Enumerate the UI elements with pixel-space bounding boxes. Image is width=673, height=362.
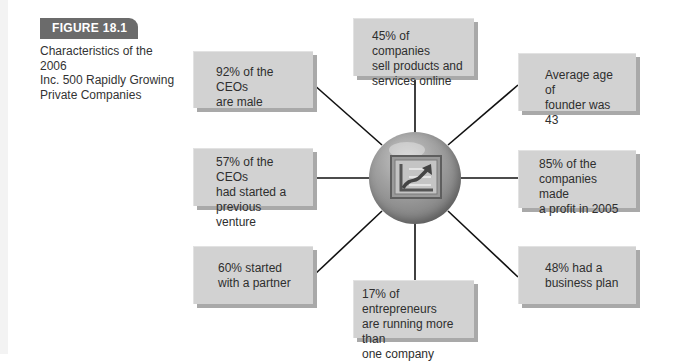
rising-chart-icon	[369, 132, 461, 224]
fact-box-male-ceos: 92% of the CEOs are male	[193, 51, 313, 108]
fact-text: had started a	[216, 185, 303, 200]
fact-box-business-plan: 48% had a business plan	[518, 246, 636, 304]
fact-box-founder-age: Average age of founder was 43	[518, 53, 636, 111]
fact-text: sell products and	[372, 59, 464, 74]
fact-text: companies made	[539, 172, 626, 202]
fact-text: 45% of companies	[372, 29, 464, 59]
fact-text: a profit in 2005	[539, 202, 626, 217]
fact-box-partner: 60% started with a partner	[193, 246, 313, 304]
fact-text: 57% of the CEOs	[216, 155, 303, 185]
fact-text: 85% of the	[539, 157, 626, 172]
fact-box-previous-venture: 57% of the CEOs had started a previous v…	[193, 148, 313, 206]
fact-text: 48% had a	[545, 261, 626, 276]
fact-box-multiple-companies: 17% of entrepreneurs are running more th…	[353, 280, 474, 338]
fact-text: 17% of entrepreneurs	[362, 287, 464, 317]
fact-text: business plan	[545, 276, 626, 291]
fact-text: founder was 43	[545, 98, 626, 128]
fact-text: previous venture	[216, 200, 303, 230]
fact-text: are running more than	[362, 317, 464, 347]
fact-box-online-sales: 45% of companies sell products and servi…	[353, 18, 474, 76]
fact-text: 92% of the CEOs	[216, 65, 303, 95]
fact-text: Average age of	[545, 68, 626, 98]
fact-text: are male	[216, 95, 303, 110]
fact-text: 60% started	[218, 261, 303, 276]
fact-box-profit: 85% of the companies made a profit in 20…	[518, 150, 636, 208]
fact-text: with a partner	[218, 276, 303, 291]
fact-text: services online	[372, 74, 464, 89]
central-hub	[369, 132, 461, 224]
fact-text: one company	[362, 347, 464, 362]
